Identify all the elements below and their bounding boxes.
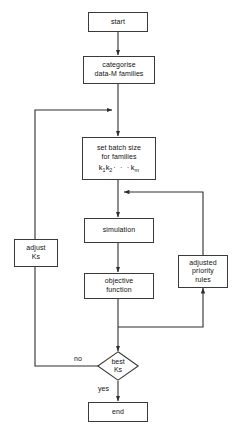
node-set-batch-size-line1: set batch size — [97, 144, 141, 153]
node-objective-function[interactable]: objective function — [84, 273, 154, 299]
edge-label-yes: yes — [98, 385, 109, 392]
node-decision-best-ks[interactable]: best Ks — [97, 351, 139, 381]
node-adjust-ks-line2: Ks — [32, 253, 40, 262]
node-categorise-line2: data-M families — [95, 70, 144, 79]
k-last-subscript: m — [135, 167, 140, 173]
node-adjusted-priority-rules-line3: rules — [195, 276, 211, 285]
node-end-label: end — [112, 408, 124, 417]
node-start-label: start — [111, 18, 125, 27]
node-adjusted-priority-rules-line1: adjusted — [189, 259, 216, 268]
node-start[interactable]: start — [88, 12, 148, 32]
node-set-batch-size-k-list: k1k2· · ·km — [99, 164, 140, 173]
node-adjusted-priority-rules-line2: priority — [192, 267, 214, 276]
edge-label-no: no — [74, 355, 82, 362]
decision-best-ks-line2: Ks — [114, 366, 122, 374]
node-set-batch-size-line2: for families — [101, 153, 136, 162]
node-adjusted-priority-rules[interactable]: adjusted priority rules — [178, 255, 228, 288]
flowchart-canvas: start categorise data-M families set bat… — [0, 0, 238, 428]
decision-best-ks-line1: best — [111, 358, 124, 366]
node-adjust-ks[interactable]: adjust Ks — [14, 239, 58, 267]
node-simulation[interactable]: simulation — [84, 218, 154, 243]
node-set-batch-size[interactable]: set batch size for families k1k2· · ·km — [82, 137, 156, 180]
node-objective-function-line2: function — [106, 286, 131, 295]
k-first-subscript: 1 — [102, 167, 105, 173]
node-end[interactable]: end — [88, 402, 148, 422]
node-adjust-ks-line1: adjust — [26, 244, 45, 253]
k-second-subscript: 2 — [109, 167, 112, 173]
decision-best-ks-text: best Ks — [97, 351, 139, 381]
k-ellipsis: · · · — [113, 163, 131, 172]
node-simulation-label: simulation — [103, 226, 136, 235]
node-categorise-line1: categorise — [102, 61, 135, 70]
node-categorise[interactable]: categorise data-M families — [83, 56, 155, 84]
node-objective-function-line1: objective — [105, 277, 134, 286]
